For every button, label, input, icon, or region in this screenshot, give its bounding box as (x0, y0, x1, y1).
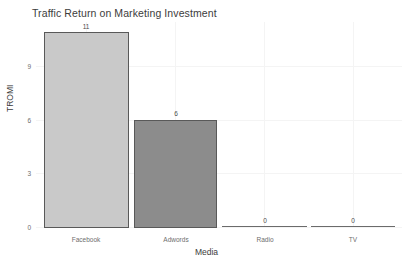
x-axis-title: Media (0, 247, 413, 257)
bar-value-adwords: 6 (174, 110, 178, 117)
bar-value-tv: 0 (351, 217, 355, 224)
y-axis-title: TROMI (5, 85, 15, 112)
bar-facebook[interactable] (44, 32, 129, 228)
xtick-radio: Radio (257, 236, 274, 243)
xtick-facebook: Facebook (72, 236, 101, 243)
bar-value-radio: 0 (263, 217, 267, 224)
ytick-9: 9 (27, 63, 31, 70)
ytick-3: 3 (27, 170, 31, 177)
bar-adwords[interactable] (134, 120, 217, 228)
bar-radio[interactable] (222, 226, 307, 228)
chart-container: Traffic Return on Marketing Investment 1… (0, 0, 413, 267)
y-axis-ticks: 0 3 6 9 (0, 0, 31, 267)
ytick-6: 6 (27, 117, 31, 124)
xtick-tv: TV (349, 236, 357, 243)
chart-title: Traffic Return on Marketing Investment (32, 7, 217, 19)
gridline-x-tv (353, 22, 354, 228)
bar-tv[interactable] (311, 226, 395, 228)
gridline-x-radio (264, 22, 265, 228)
ytick-0: 0 (27, 224, 31, 231)
bar-value-facebook: 11 (83, 23, 90, 30)
xtick-adwords: Adwords (163, 236, 188, 243)
